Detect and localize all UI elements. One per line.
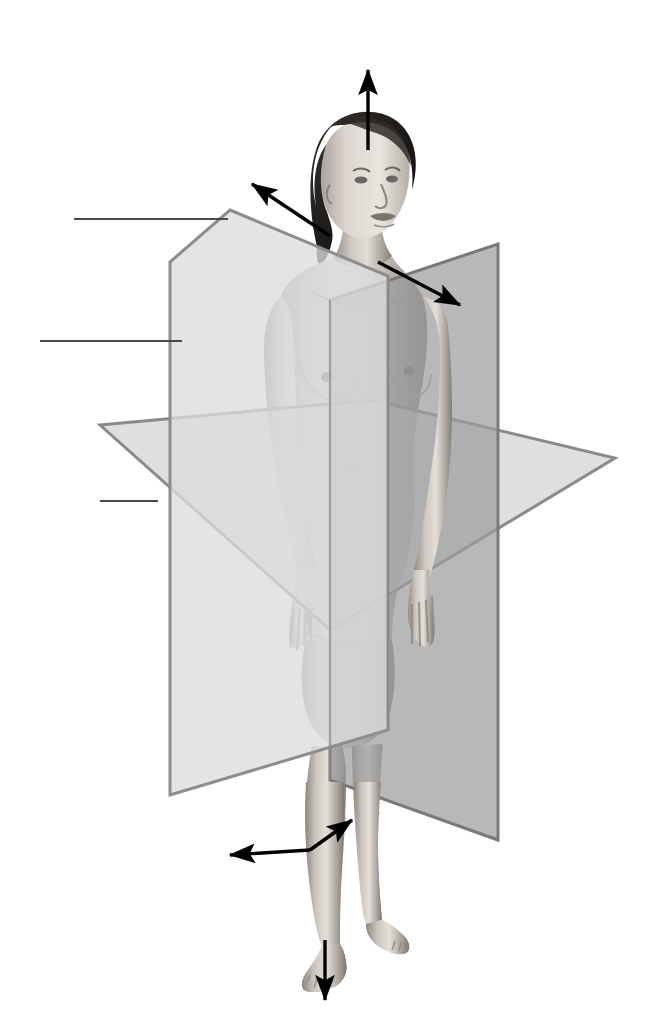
lower-leg-left [305,782,344,946]
foot-right-front [366,920,409,954]
eye-right [386,176,398,183]
lateral-left-arrow [230,850,310,855]
eye-left [355,176,368,183]
anatomical-planes-figure [0,0,662,1031]
planes-scene [0,0,662,1031]
sagittal-plane [170,210,388,795]
